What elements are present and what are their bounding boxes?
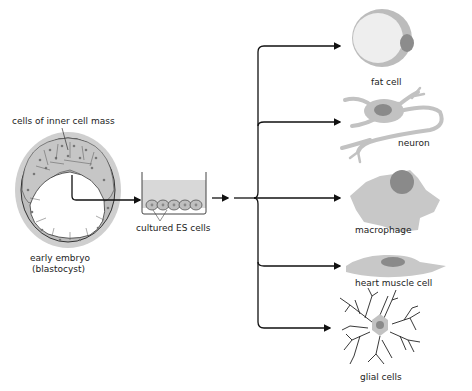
label-macrophage: macrophage	[355, 225, 411, 236]
label-cultured-es-cells: cultured ES cells	[136, 223, 210, 234]
label-neuron: neuron	[398, 138, 430, 149]
label-heart-muscle-cell: heart muscle cell	[355, 278, 432, 289]
label-fat-cell: fat cell	[371, 77, 402, 88]
label-inner-cell-mass: cells of inner cell mass	[12, 116, 115, 127]
culture-dish	[142, 172, 206, 221]
label-embryo-line1: early embryo	[30, 253, 90, 264]
neuron-illustration	[342, 88, 442, 162]
fat-cell-illustration	[352, 9, 414, 67]
label-glial-cells: glial cells	[360, 372, 402, 383]
macrophage-illustration	[350, 170, 440, 232]
branch-arrows	[254, 46, 340, 328]
diagram-canvas	[0, 0, 472, 391]
label-embryo-line2: (blastocyst)	[32, 264, 85, 275]
blastocyst	[15, 128, 121, 248]
heart-muscle-illustration	[346, 255, 446, 277]
